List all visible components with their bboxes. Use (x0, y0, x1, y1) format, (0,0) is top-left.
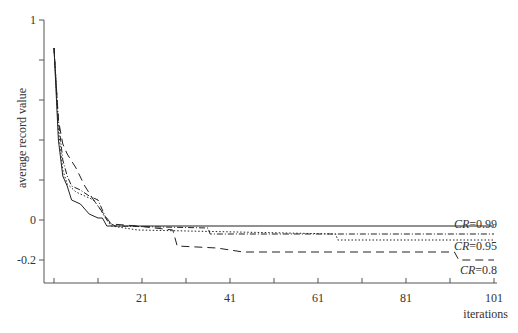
annotation-label: CR=0.99 (454, 217, 497, 231)
series-lines (54, 48, 494, 260)
series-baseline (54, 48, 494, 226)
y-tick-label: 0 (30, 213, 36, 227)
x-tick-label: 81 (400, 291, 412, 305)
annotation-label: CR=0.95 (454, 239, 497, 253)
axes: 10-0.221416181101 (17, 13, 503, 305)
x-axis-label: iterations (463, 307, 508, 321)
y-axis-label: average record value (15, 88, 29, 188)
annotation-label: CR=0.8 (460, 263, 497, 277)
line-chart: 10-0.221416181101 average record value i… (0, 0, 518, 333)
x-tick-label: 61 (312, 291, 324, 305)
series-cr-0-8 (54, 48, 494, 260)
series-cr-0-99 (54, 48, 494, 234)
y-tick-label: 1 (30, 13, 36, 27)
x-tick-label: 41 (224, 291, 236, 305)
x-tick-label: 101 (485, 291, 503, 305)
x-tick-label: 21 (136, 291, 148, 305)
line-annotations: CR=0.99CR=0.95CR=0.8 (454, 217, 497, 277)
series-cr-0-95 (54, 48, 494, 240)
y-tick-label: -0.2 (17, 253, 36, 267)
